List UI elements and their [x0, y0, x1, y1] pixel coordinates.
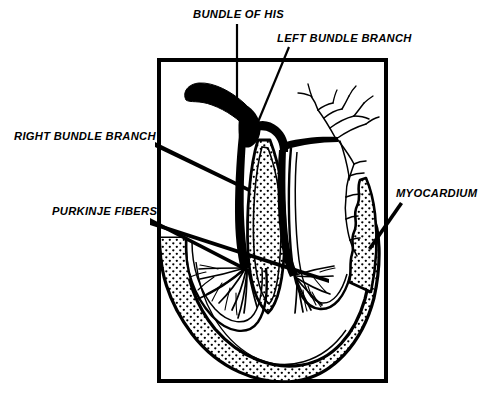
label-right-bundle-branch: RIGHT BUNDLE BRANCH — [14, 130, 156, 142]
label-purkinje-fibers: PURKINJE FIBERS — [52, 205, 157, 217]
label-left-bundle-branch: LEFT BUNDLE BRANCH — [277, 32, 412, 44]
purkinje-twigs-upper-right — [298, 84, 373, 103]
leader-right-bundle-branch — [155, 142, 249, 192]
diagram-canvas: BUNDLE OF HIS LEFT BUNDLE BRANCH RIGHT B… — [0, 0, 490, 406]
label-myocardium: MYOCARDIUM — [396, 187, 478, 199]
label-bundle-of-his: BUNDLE OF HIS — [193, 8, 284, 20]
cardiac-conduction-figure: BUNDLE OF HIS LEFT BUNDLE BRANCH RIGHT B… — [0, 0, 490, 406]
